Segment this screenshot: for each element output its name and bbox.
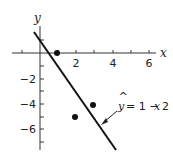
x-axis-label: x bbox=[160, 46, 167, 60]
data-point bbox=[90, 102, 96, 108]
x-tick-label-6: 6 bbox=[146, 57, 153, 70]
y-axis-label: y bbox=[33, 11, 41, 25]
y-ticks bbox=[40, 40, 44, 142]
y-tick-label-m6: −6 bbox=[20, 123, 36, 136]
x-tick-label-4: 4 bbox=[110, 57, 117, 70]
eq-rest: = 1 − 2 bbox=[126, 100, 169, 113]
scatter-plot: 2 4 6 −2 −4 −6 x y y ^ = 1 − 2 x bbox=[0, 0, 173, 161]
data-point bbox=[72, 114, 78, 120]
x-tick-label-2: 2 bbox=[73, 57, 80, 70]
regression-equation: y ^ = 1 − 2 x bbox=[117, 90, 169, 113]
regression-line bbox=[34, 32, 116, 150]
data-point bbox=[54, 50, 60, 56]
y-tick-label-m2: −2 bbox=[20, 73, 36, 86]
eq-x-var: x bbox=[154, 100, 161, 113]
annotation-arrow bbox=[101, 111, 117, 125]
y-tick-label-m4: −4 bbox=[20, 98, 36, 111]
